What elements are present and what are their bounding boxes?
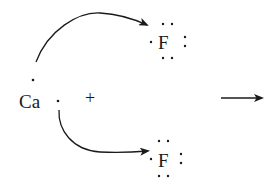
fluorine-top-electron (162, 57, 164, 59)
fluorine-bottom-electron-left (150, 158, 152, 160)
lewis-diagram: Ca + F F (0, 0, 278, 185)
diagram-canvas: Ca + F F (0, 0, 278, 185)
fluorine-bottom-electron (158, 140, 160, 142)
calcium-atom: Ca (19, 79, 59, 112)
fluorine-top-electron (184, 45, 186, 47)
electron-transfer-arrow-bottom (59, 110, 148, 152)
fluorine-top-electron-left (150, 41, 152, 43)
electron-transfer-arrow-top (36, 13, 147, 62)
fluorine-bottom-electron (180, 162, 182, 164)
fluorine-bottom-electron (167, 175, 169, 177)
fluorine-bottom-electron (158, 175, 160, 177)
fluorine-symbol-top: F (158, 32, 169, 53)
fluorine-symbol-bottom: F (158, 150, 169, 171)
plus-sign: + (85, 88, 95, 108)
calcium-symbol: Ca (19, 91, 41, 112)
calcium-electron-right (57, 100, 60, 103)
fluorine-top-electron (184, 36, 186, 38)
fluorine-atom-bottom: F (150, 140, 182, 177)
fluorine-top-electron (162, 23, 164, 25)
calcium-electron-top (32, 79, 35, 82)
fluorine-bottom-electron (180, 153, 182, 155)
fluorine-bottom-electron (167, 140, 169, 142)
fluorine-top-electron (171, 23, 173, 25)
fluorine-top-electron (171, 57, 173, 59)
fluorine-atom-top: F (150, 23, 186, 59)
